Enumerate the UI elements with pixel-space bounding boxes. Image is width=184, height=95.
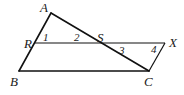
label-point-a: A [39,0,48,15]
label-point-c: C [144,74,153,89]
label-point-x: X [168,35,178,50]
label-angle-2: 2 [74,31,80,43]
label-point-b: B [10,74,18,89]
geometry-diagram: A R B S X C 1 2 3 4 [0,0,184,95]
label-angle-1: 1 [43,31,49,43]
label-point-r: R [23,36,32,51]
label-angle-4: 4 [151,43,157,55]
label-angle-3: 3 [118,44,125,56]
label-point-s: S [97,30,104,45]
